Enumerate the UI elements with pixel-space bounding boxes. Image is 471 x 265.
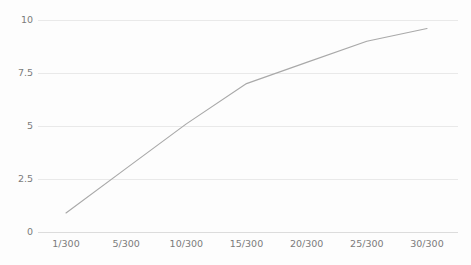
- data-series-line: [66, 28, 427, 212]
- y-axis-tick-label: 0: [27, 226, 33, 237]
- line-chart: 02.557.510 1/3005/30010/30015/30020/3002…: [0, 0, 471, 265]
- x-axis-tick-labels: 1/3005/30010/30015/30020/30025/30030/300: [52, 238, 443, 249]
- data-series-group: [66, 28, 427, 212]
- y-axis-tick-label: 5: [27, 120, 33, 131]
- y-axis-tick-label: 2.5: [18, 173, 33, 184]
- y-axis-tick-labels: 02.557.510: [18, 14, 33, 237]
- x-axis-tick-label: 15/300: [230, 238, 263, 249]
- chart-plot-area: 02.557.510 1/3005/30010/30015/30020/3002…: [0, 0, 471, 265]
- x-axis-tick-label: 20/300: [290, 238, 323, 249]
- x-axis-tick-label: 5/300: [112, 238, 139, 249]
- y-axis-tick-label: 7.5: [18, 67, 33, 78]
- x-axis-tick-label: 25/300: [350, 238, 383, 249]
- y-axis-tick-label: 10: [21, 14, 33, 25]
- x-axis-tick-label: 30/300: [410, 238, 443, 249]
- gridlines-group: [38, 21, 458, 233]
- x-axis-tick-label: 10/300: [170, 238, 203, 249]
- x-axis-tick-label: 1/300: [52, 238, 79, 249]
